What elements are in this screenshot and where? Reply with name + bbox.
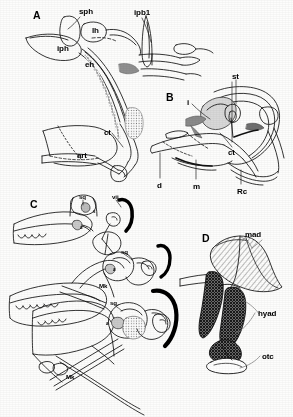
figure-linework [0, 0, 293, 417]
panel-a-linework [26, 16, 213, 182]
label-sq-lower: sq [110, 300, 117, 306]
panel-letter-b: B [166, 92, 173, 103]
label-art: art [77, 152, 87, 160]
label-i: i [187, 99, 189, 107]
label-sq-upper: sq [79, 194, 86, 200]
panel-c-middle-linework [9, 246, 170, 327]
label-sq-middle: sq [121, 249, 128, 255]
label-hyad: hyad [258, 310, 276, 318]
label-d: d [157, 182, 162, 190]
label-mk-lower: Mk [66, 374, 74, 380]
label-mad: mad [245, 231, 261, 239]
panel-letter-c: C [30, 199, 37, 210]
label-sph: sph [79, 8, 93, 16]
label-s-upper: s [93, 210, 95, 215]
panel-c-lower-linework [32, 291, 176, 415]
panel-letter-a: A [33, 10, 40, 21]
panel-letter-d: D [202, 233, 209, 244]
label-otc: otc [262, 353, 274, 361]
label-lh: lh [92, 27, 99, 35]
label-mk-middle: Mk [99, 283, 107, 289]
anatomical-figure-plate: A B C D sph ipb1 lh iph eh ct art st i c… [0, 0, 293, 417]
label-st: st [232, 73, 239, 81]
label-m: m [193, 183, 200, 191]
label-ct-b: ct [228, 149, 235, 157]
label-rc: Rc [237, 188, 247, 196]
label-a-middle: a [113, 268, 115, 273]
label-a-lower: a [106, 322, 108, 327]
label-iph: iph [57, 45, 69, 53]
label-a-upper: a [80, 226, 82, 231]
label-vii: vii [112, 194, 119, 200]
label-ct-a: ct [104, 129, 111, 137]
label-ipb1: ipb1 [134, 9, 150, 17]
label-eh: eh [85, 61, 94, 69]
